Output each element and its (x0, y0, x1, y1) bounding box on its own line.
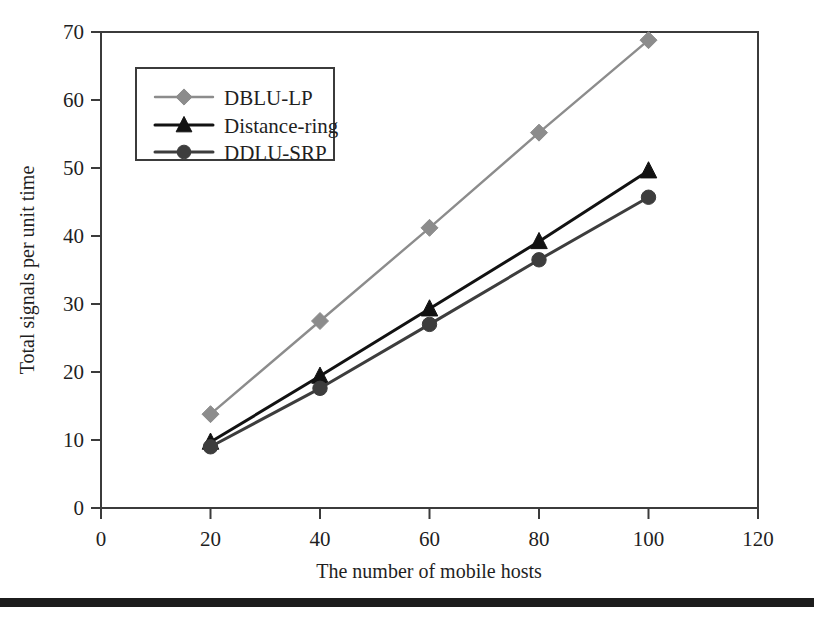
x-tick-label: 60 (419, 527, 440, 551)
x-axis-title: The number of mobile hosts (316, 560, 542, 582)
triangle-marker (640, 162, 657, 178)
legend-label: Distance-ring (224, 114, 339, 138)
series-distance-ring (202, 162, 657, 450)
triangle-marker (421, 300, 438, 316)
line-chart: 010203040506070 020406080100120 DBLU-LPD… (0, 0, 814, 600)
legend-label: DBLU-LP (224, 86, 313, 110)
y-tick-label: 50 (63, 156, 84, 180)
x-tick-label: 40 (310, 527, 331, 551)
triangle-marker (531, 232, 548, 248)
chart-legend: DBLU-LPDistance-ringDDLU-SRP (136, 68, 339, 165)
circle-marker (641, 190, 655, 204)
y-axis-ticks: 010203040506070 (63, 20, 101, 520)
x-tick-label: 20 (200, 527, 221, 551)
y-tick-label: 30 (63, 292, 84, 316)
legend-label: DDLU-SRP (224, 141, 327, 165)
footer-rule (0, 598, 814, 607)
circle-marker (203, 440, 217, 454)
y-tick-label: 20 (63, 360, 84, 384)
y-tick-label: 10 (63, 428, 84, 452)
y-tick-label: 40 (63, 224, 84, 248)
y-tick-label: 70 (63, 20, 84, 44)
y-axis-title: Total signals per unit time (16, 166, 39, 375)
figure-container: 010203040506070 020406080100120 DBLU-LPD… (0, 0, 814, 621)
x-tick-label: 100 (633, 527, 665, 551)
circle-marker (177, 145, 191, 159)
circle-marker (313, 381, 327, 395)
circle-marker (532, 253, 546, 267)
circle-marker (422, 317, 436, 331)
x-tick-label: 80 (529, 527, 550, 551)
legend-entries: DBLU-LPDistance-ringDDLU-SRP (155, 86, 339, 165)
x-tick-label: 0 (96, 527, 107, 551)
y-tick-label: 0 (74, 496, 85, 520)
x-axis-ticks: 020406080100120 (96, 508, 774, 551)
x-tick-label: 120 (742, 527, 774, 551)
y-tick-label: 60 (63, 88, 84, 112)
